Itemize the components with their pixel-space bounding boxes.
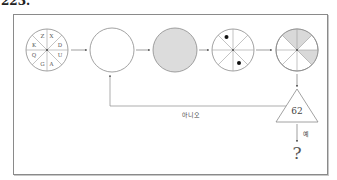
- wheel-letter-g: G: [40, 61, 44, 67]
- wheel-letter-q: Q: [32, 52, 37, 58]
- flow-diagram: Z X D U A G Q K: [0, 0, 337, 180]
- decision-triangle: 62: [276, 89, 318, 122]
- decision-value: 62: [291, 106, 302, 116]
- dot-bottom-right: [237, 61, 241, 65]
- shaded-segment-circle: [276, 29, 318, 71]
- gray-filled-circle: [153, 28, 197, 72]
- dot-top-left: [225, 35, 229, 39]
- wheel-letter-u: U: [58, 52, 63, 58]
- dotted-segment-circle: [212, 29, 254, 71]
- result-question-mark: ?: [292, 143, 301, 163]
- letter-wheel-circle: Z X D U A G Q K: [26, 29, 68, 71]
- no-label: 아니오: [182, 111, 200, 119]
- wheel-letter-z: Z: [41, 33, 45, 39]
- yes-label: 예: [303, 130, 309, 138]
- no-loop-arrow: [110, 75, 286, 106]
- wheel-letter-x: X: [50, 33, 54, 39]
- wheel-letter-d: D: [58, 42, 63, 48]
- empty-circle: [90, 28, 134, 72]
